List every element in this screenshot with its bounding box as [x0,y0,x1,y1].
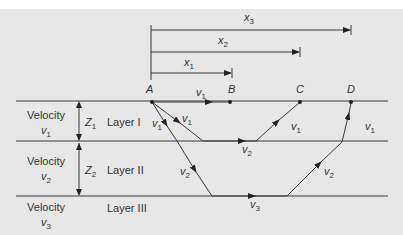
layer-2-velocity: Velocityv2 [16,154,76,187]
point-a-marker [150,100,154,104]
point-d-marker [349,100,353,104]
layer-3-velocity: Velocityv3 [16,200,76,233]
x1-label: x1 [184,57,194,71]
layer-1-name: Layer I [107,117,141,128]
layer-1-velocity: Velocityv1 [16,108,76,141]
layer-3-name: Layer III [107,203,147,214]
ray1-down-label: v1 [182,113,192,127]
ray2-up1-label: v1 [365,121,375,135]
point-b-label: B [228,84,235,95]
point-c-marker [298,100,302,104]
point-a-label: A [146,84,153,95]
z1-label: Z1 [85,117,96,131]
x2-label: x2 [218,35,228,49]
point-b-marker [228,100,232,104]
ray1-refract-label: v2 [242,144,252,158]
ray2-refract-label: v3 [250,199,260,213]
layer-2-name: Layer II [107,165,144,176]
x3-label: x3 [244,12,254,26]
direct-ray-label: v1 [196,87,206,101]
ray2-down1-label: v1 [152,118,162,132]
point-d-label: D [347,84,355,95]
ray2-down2-label: v2 [180,166,190,180]
point-c-label: C [296,84,304,95]
ray1-up-label: v1 [291,121,301,135]
ray2-up2-label: v2 [324,166,334,180]
z2-label: Z2 [85,165,96,179]
